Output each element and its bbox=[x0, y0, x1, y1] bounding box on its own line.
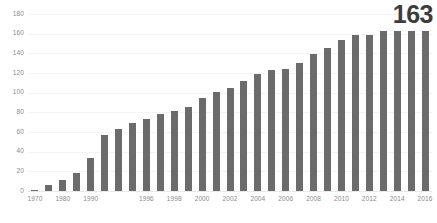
bar bbox=[380, 31, 387, 191]
bar bbox=[296, 63, 303, 191]
x-axis-tick-label: 2012 bbox=[362, 196, 377, 203]
bar bbox=[240, 81, 247, 191]
y-axis-tick-label: 120 bbox=[0, 70, 24, 77]
x-axis-labels: 1970198019901996199820002002200420062008… bbox=[28, 196, 432, 210]
x-axis-tick-label: 2006 bbox=[278, 196, 293, 203]
y-axis-tick-label: 180 bbox=[0, 11, 24, 18]
bar bbox=[143, 119, 150, 191]
bar-chart: 020406080100120140160180 197019801990199… bbox=[0, 0, 437, 223]
x-axis-tick-label: 1980 bbox=[55, 196, 70, 203]
y-axis-tick-label: 0 bbox=[0, 188, 24, 195]
y-axis-tick-label: 40 bbox=[0, 148, 24, 155]
bar bbox=[422, 31, 429, 191]
bar bbox=[171, 111, 178, 191]
x-axis-tick-label: 1970 bbox=[28, 196, 43, 203]
bar bbox=[199, 98, 206, 191]
bar bbox=[268, 70, 275, 191]
bars-container bbox=[28, 14, 432, 191]
x-axis-tick-label: 2000 bbox=[195, 196, 210, 203]
bar bbox=[115, 129, 122, 191]
bar bbox=[254, 74, 261, 191]
bar bbox=[185, 107, 192, 191]
bar bbox=[213, 92, 220, 191]
bar bbox=[129, 123, 136, 191]
y-axis-tick-label: 60 bbox=[0, 129, 24, 136]
bar bbox=[227, 88, 234, 191]
bar bbox=[352, 35, 359, 191]
x-axis-tick-label: 1996 bbox=[139, 196, 154, 203]
bar bbox=[338, 40, 345, 191]
bar bbox=[408, 31, 415, 191]
bar bbox=[310, 54, 317, 191]
y-axis-tick-label: 80 bbox=[0, 109, 24, 116]
bar bbox=[45, 185, 52, 191]
bar bbox=[59, 180, 66, 191]
y-axis-tick-label: 20 bbox=[0, 168, 24, 175]
y-axis-tick-label: 160 bbox=[0, 30, 24, 37]
x-axis-tick-label: 2004 bbox=[250, 196, 265, 203]
final-value-callout: 163 bbox=[393, 2, 433, 27]
x-axis-tick-label: 1998 bbox=[167, 196, 182, 203]
bar bbox=[101, 135, 108, 191]
bar bbox=[394, 31, 401, 191]
bar bbox=[366, 35, 373, 191]
x-axis-tick-label: 1990 bbox=[83, 196, 98, 203]
bar bbox=[73, 173, 80, 191]
bar bbox=[282, 69, 289, 191]
y-axis: 020406080100120140160180 bbox=[0, 14, 24, 191]
x-axis-tick-label: 2014 bbox=[390, 196, 405, 203]
x-axis-tick-label: 2010 bbox=[334, 196, 349, 203]
y-axis-tick-label: 100 bbox=[0, 89, 24, 96]
x-axis-tick-label: 2016 bbox=[418, 196, 433, 203]
bar bbox=[87, 158, 94, 191]
bar bbox=[31, 190, 38, 192]
y-axis-tick-label: 140 bbox=[0, 50, 24, 57]
x-axis-tick-label: 2002 bbox=[223, 196, 238, 203]
x-axis-tick-label: 2008 bbox=[306, 196, 321, 203]
bar bbox=[157, 114, 164, 191]
x-axis-baseline bbox=[28, 191, 432, 192]
bar bbox=[324, 48, 331, 191]
